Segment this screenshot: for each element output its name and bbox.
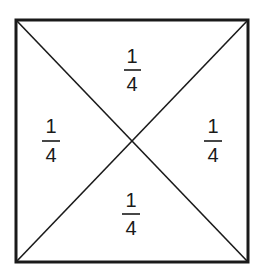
fraction-left-denominator: 4: [45, 144, 56, 166]
fraction-bottom-numerator: 1: [125, 189, 136, 211]
fraction-right-denominator: 4: [207, 144, 218, 166]
fraction-right: 1 4: [204, 115, 222, 166]
fraction-bottom-denominator: 4: [125, 217, 136, 239]
square-fraction-diagram: 1 4 1 4 1 4 1 4: [0, 0, 267, 278]
fraction-top-denominator: 4: [126, 73, 137, 95]
fraction-bottom: 1 4: [122, 189, 140, 239]
fraction-right-numerator: 1: [207, 115, 218, 137]
fraction-left-numerator: 1: [45, 115, 56, 137]
fraction-top-numerator: 1: [126, 45, 137, 67]
fraction-left: 1 4: [42, 115, 60, 166]
fraction-top: 1 4: [124, 45, 141, 95]
